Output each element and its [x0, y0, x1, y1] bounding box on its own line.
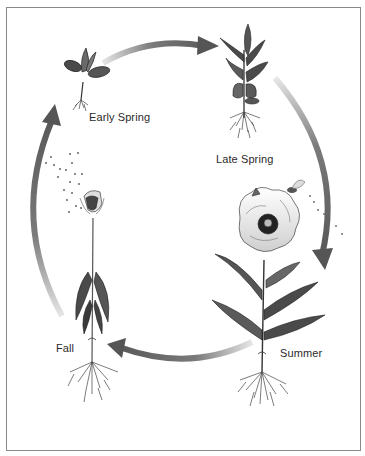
- stage-label-early-spring: Early Spring: [89, 111, 150, 123]
- arrow-fall-to-early-spring: [33, 104, 62, 316]
- arrow-summer-to-fall: [107, 338, 252, 359]
- early-spring-seedling: [63, 48, 111, 111]
- stage-label-fall: Fall: [56, 342, 74, 354]
- arrow-early-to-late-spring: [103, 36, 219, 63]
- dispersing-seeds: [41, 152, 83, 213]
- summer-poppy-plant: [212, 187, 325, 406]
- life-cycle-diagram: [0, 0, 365, 456]
- fall-plant: [68, 191, 118, 402]
- stage-label-summer: Summer: [280, 347, 322, 359]
- stage-label-late-spring: Late Spring: [216, 153, 273, 165]
- late-spring-plant: [220, 24, 268, 138]
